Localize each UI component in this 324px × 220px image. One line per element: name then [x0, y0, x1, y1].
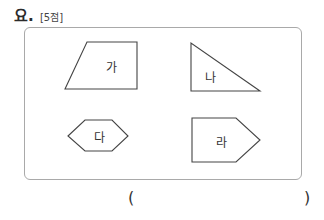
- figure-label-ga: 가: [106, 58, 117, 75]
- figure-label-da: 다: [94, 128, 105, 145]
- answer-field[interactable]: [140, 190, 300, 208]
- figure-label-na: 나: [205, 68, 216, 85]
- triangle-shape: [191, 43, 260, 91]
- figure-label-ra: 라: [216, 133, 227, 150]
- trapezoid-shape: [65, 42, 137, 89]
- figures-canvas: [0, 0, 324, 220]
- answer-close-paren: ): [304, 188, 310, 207]
- answer-open-paren: (: [128, 188, 134, 207]
